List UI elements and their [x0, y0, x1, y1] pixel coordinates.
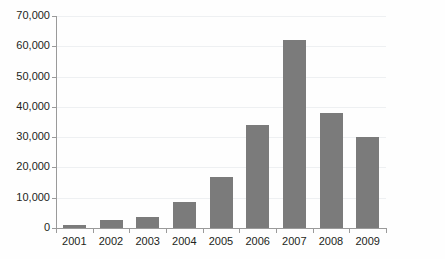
bar [63, 225, 86, 228]
x-axis-tick [349, 228, 350, 233]
y-axis-tick-label: 0 [2, 222, 50, 233]
bar [100, 220, 123, 228]
x-axis-tick [129, 228, 130, 233]
y-axis-tick-label: 20,000 [2, 161, 50, 172]
y-axis-tick [52, 198, 56, 199]
x-axis-tick [239, 228, 240, 233]
y-axis-tick-label: 50,000 [2, 71, 50, 82]
y-axis-tick-label: 10,000 [2, 192, 50, 203]
y-axis-tick [52, 77, 56, 78]
x-axis-tick-label: 2009 [346, 235, 390, 247]
bar [283, 40, 306, 228]
bar [136, 217, 159, 228]
bar-chart: 010,00020,00030,00040,00050,00060,00070,… [0, 0, 445, 259]
x-axis-tick [313, 228, 314, 233]
y-axis-labels: 010,00020,00030,00040,00050,00060,00070,… [0, 0, 50, 259]
y-axis-tick [52, 137, 56, 138]
bar [320, 113, 343, 228]
x-axis-tick [166, 228, 167, 233]
x-axis-tick [203, 228, 204, 233]
y-axis-tick-label: 30,000 [2, 131, 50, 142]
bars-layer [56, 16, 386, 228]
y-axis-tick [52, 16, 56, 17]
x-axis-tick [276, 228, 277, 233]
x-axis-tick [386, 228, 387, 233]
y-axis-tick-label: 60,000 [2, 40, 50, 51]
bar [246, 125, 269, 228]
x-axis-tick [93, 228, 94, 233]
x-axis-tick [56, 228, 57, 233]
gridline [56, 228, 386, 229]
bar [173, 202, 196, 228]
y-axis-tick [52, 107, 56, 108]
y-axis-tick-label: 70,000 [2, 10, 50, 21]
bar [356, 137, 379, 228]
y-axis-tick-label: 40,000 [2, 101, 50, 112]
y-axis-tick [52, 167, 56, 168]
y-axis-tick [52, 46, 56, 47]
bar [210, 177, 233, 228]
